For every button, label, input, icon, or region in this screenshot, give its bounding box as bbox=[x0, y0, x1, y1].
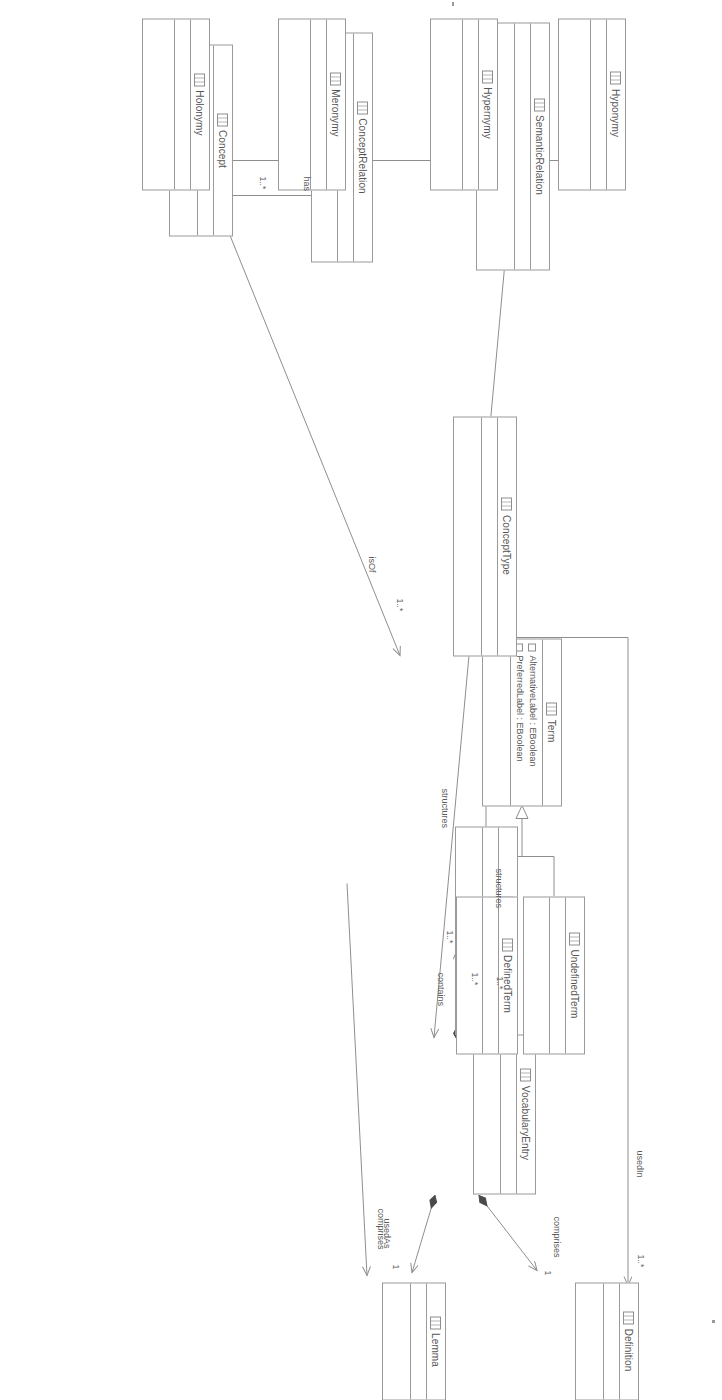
class-name: VocabularyEntry bbox=[521, 1085, 532, 1159]
page-speck bbox=[712, 1320, 715, 1323]
class-name: SemanticRelation bbox=[535, 115, 546, 195]
class-header: SemanticRelation bbox=[530, 23, 549, 269]
class-vocabularyentry[interactable]: VocabularyEntry bbox=[473, 1034, 536, 1194]
class-header: Hypernymy bbox=[478, 19, 497, 189]
class-name: Holonymy bbox=[195, 90, 206, 135]
mult-definition-end: 1 bbox=[543, 1270, 552, 1275]
class-icon bbox=[431, 1316, 442, 1329]
class-header: Lemma bbox=[426, 1283, 445, 1399]
class-name: Lemma bbox=[431, 1333, 442, 1367]
class-term[interactable]: Term AlternativeLabel : EBoolean Preferr… bbox=[482, 638, 562, 806]
class-name: Term bbox=[547, 719, 558, 742]
attribute-icon bbox=[529, 643, 537, 651]
edge-label-structures-semanticrelation: structures bbox=[440, 788, 450, 828]
class-header: ConceptRelation bbox=[353, 33, 372, 261]
class-name: ConceptRelation bbox=[358, 118, 369, 193]
class-undefinedterm[interactable]: UndefinedTerm bbox=[523, 896, 585, 1054]
class-attributes bbox=[174, 19, 190, 189]
edge-label-has: has bbox=[302, 176, 312, 191]
class-concepttype[interactable]: ConceptType bbox=[453, 416, 517, 656]
class-definition[interactable]: Definition bbox=[575, 1282, 639, 1400]
edge-label-comprises-definition: comprises bbox=[552, 1216, 562, 1257]
class-header: Meronymy bbox=[326, 19, 345, 189]
edge-label-usedIn: usedIn bbox=[635, 1150, 645, 1177]
class-attributes bbox=[410, 1283, 426, 1399]
edge-label-contains: contains bbox=[436, 972, 446, 1006]
edge-comprises-definition bbox=[479, 1195, 537, 1270]
edge-usedAs bbox=[347, 883, 367, 1275]
class-icon bbox=[503, 938, 514, 951]
edge-comprises-lemma bbox=[412, 1195, 435, 1272]
mult-structures-concepttype-end: 1..* bbox=[495, 976, 504, 989]
class-attributes bbox=[481, 417, 497, 655]
class-name: Definition bbox=[624, 1328, 635, 1371]
class-name: UndefinedTerm bbox=[570, 949, 581, 1018]
attribute-label: PreferredLabel : EBoolean bbox=[513, 655, 526, 761]
class-lemma[interactable]: Lemma bbox=[382, 1282, 446, 1400]
class-icon bbox=[483, 70, 494, 83]
attribute-label: AlternativeLabel : EBoolean bbox=[526, 655, 539, 766]
mult-usedIn-end: 1..* bbox=[636, 1254, 645, 1267]
class-holonymy[interactable]: Holonymy bbox=[142, 18, 210, 190]
class-attributes bbox=[482, 897, 498, 1053]
mult-has-end: 1..* bbox=[258, 176, 267, 189]
class-header: UndefinedTerm bbox=[565, 897, 584, 1053]
class-name: ConceptType bbox=[502, 514, 513, 574]
class-attributes bbox=[500, 1035, 516, 1193]
class-icon bbox=[611, 71, 622, 84]
class-name: Hypernymy bbox=[483, 87, 494, 138]
mult-isOf-end: 1..* bbox=[395, 598, 404, 611]
class-attributes bbox=[603, 1283, 619, 1399]
class-icon bbox=[521, 1068, 532, 1081]
edge-label-structures-concepttype: structures bbox=[494, 868, 504, 908]
class-icon bbox=[502, 497, 513, 510]
class-icon bbox=[547, 702, 558, 715]
class-icon bbox=[195, 73, 206, 86]
mult-structures-semanticrelation-end: 1..* bbox=[445, 930, 454, 943]
class-icon bbox=[331, 72, 342, 85]
mult-lemma-end: 1 bbox=[391, 1264, 400, 1269]
class-header: Definition bbox=[619, 1283, 638, 1399]
class-name: Meronymy bbox=[331, 89, 342, 136]
class-header: DefinedTerm bbox=[498, 897, 517, 1053]
edge-label-usedAs: usedAs bbox=[382, 1218, 392, 1248]
class-definedterm[interactable]: DefinedTerm bbox=[456, 896, 518, 1054]
class-header: Concept bbox=[213, 45, 232, 235]
class-icon bbox=[218, 113, 229, 126]
class-attributes bbox=[462, 19, 478, 189]
class-attributes bbox=[514, 23, 530, 269]
class-name: Hyponymy bbox=[611, 88, 622, 136]
attribute-row: PreferredLabel : EBoolean bbox=[513, 643, 526, 801]
class-hypernymy[interactable]: Hypernymy bbox=[430, 18, 498, 190]
class-icon bbox=[358, 101, 369, 114]
class-header: Hyponymy bbox=[606, 19, 625, 189]
class-header: VocabularyEntry bbox=[516, 1035, 535, 1193]
class-header: ConceptType bbox=[497, 417, 516, 655]
attribute-row: AlternativeLabel : EBoolean bbox=[526, 643, 539, 801]
edge-label-isOf: isOf bbox=[367, 556, 377, 572]
class-attributes bbox=[590, 19, 606, 189]
class-icon bbox=[624, 1311, 635, 1324]
class-header: Term bbox=[542, 639, 561, 805]
mult-vocabularyentry-end: 1..* bbox=[470, 972, 479, 985]
class-hyponymy[interactable]: Hyponymy bbox=[558, 18, 626, 190]
page-speck bbox=[452, 2, 454, 6]
class-header: Holonymy bbox=[190, 19, 209, 189]
class-attributes bbox=[310, 19, 326, 189]
class-attributes bbox=[549, 897, 565, 1053]
class-attributes: AlternativeLabel : EBoolean PreferredLab… bbox=[510, 639, 542, 805]
class-meronymy[interactable]: Meronymy bbox=[278, 18, 346, 190]
edge-isOf bbox=[230, 235, 400, 655]
class-name: Concept bbox=[218, 130, 229, 168]
class-icon bbox=[570, 932, 581, 945]
class-icon bbox=[535, 98, 546, 111]
